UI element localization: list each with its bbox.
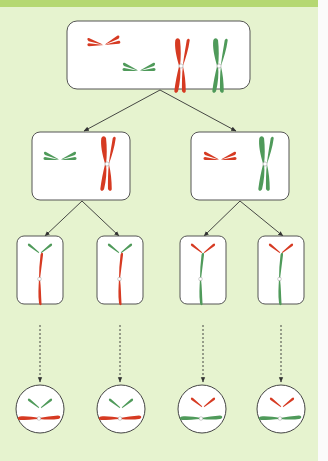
solid-arrows-meiosis-II	[45, 201, 283, 236]
daughter-cell-left	[32, 132, 130, 200]
product-cell-4	[258, 236, 304, 305]
gamete-2	[97, 385, 145, 433]
gamete-4	[257, 385, 305, 433]
product-cell-3	[180, 236, 226, 305]
gamete-3	[178, 385, 226, 433]
daughter-cell-right	[191, 132, 289, 200]
product-cell-1	[17, 236, 63, 305]
parent-cell	[67, 21, 250, 93]
meiosis-diagram	[0, 0, 328, 461]
product-cell-2	[97, 236, 143, 305]
gamete-1	[16, 385, 64, 433]
dashed-arrows-maturation	[40, 325, 281, 382]
solid-arrows-meiosis-I	[84, 90, 236, 131]
